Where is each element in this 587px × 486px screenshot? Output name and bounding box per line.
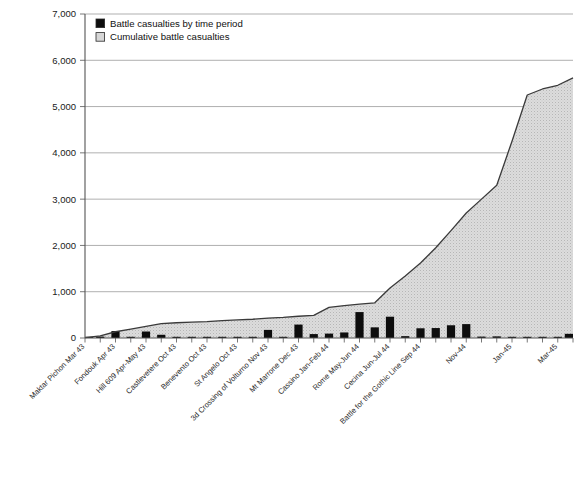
y-axis-labels: 01,0002,0003,0004,0005,0006,0007,000 xyxy=(52,8,76,343)
bar xyxy=(416,328,424,338)
bar xyxy=(462,324,470,338)
bar xyxy=(386,317,394,338)
x-axis-tick-label: Nov-44 xyxy=(444,342,468,366)
y-axis-tick-label: 6,000 xyxy=(52,55,76,66)
cumulative-area xyxy=(85,78,573,338)
x-axis-tick-label: Mar-45 xyxy=(536,342,559,365)
y-axis-tick-label: 4,000 xyxy=(52,147,76,158)
bar xyxy=(340,332,348,338)
legend-swatch xyxy=(96,19,105,28)
y-axis-tick-label: 1,000 xyxy=(52,286,76,297)
y-axis-ticks xyxy=(80,14,85,338)
y-axis-tick-label: 2,000 xyxy=(52,240,76,251)
legend-label: Cumulative battle casualties xyxy=(110,31,230,42)
y-axis-tick-label: 5,000 xyxy=(52,101,76,112)
y-axis-tick-label: 7,000 xyxy=(52,8,76,19)
bar xyxy=(294,325,302,338)
bar xyxy=(447,325,455,338)
bar xyxy=(371,327,379,338)
bar xyxy=(325,334,333,338)
y-axis-tick-label: 0 xyxy=(71,332,76,343)
bar xyxy=(310,334,318,338)
casualties-chart: 01,0002,0003,0004,0005,0006,0007,000 Mak… xyxy=(0,0,587,486)
bar xyxy=(565,334,573,338)
bar xyxy=(142,332,150,338)
x-axis-tick-label: Maktar Pichon Mar 43 xyxy=(28,342,87,401)
legend: Battle casualties by time periodCumulati… xyxy=(96,18,243,43)
bar xyxy=(264,330,272,338)
legend-swatch xyxy=(96,33,105,42)
chart-container: 01,0002,0003,0004,0005,0006,0007,000 Mak… xyxy=(0,0,587,486)
bar xyxy=(355,312,363,338)
x-axis-ticks xyxy=(85,338,573,343)
y-axis-tick-label: 3,000 xyxy=(52,194,76,205)
legend-label: Battle casualties by time period xyxy=(110,18,243,29)
x-axis-labels: Maktar Pichon Mar 43Fondouk Apr 43Hill 6… xyxy=(28,342,560,426)
x-axis-tick-label: Jan-45 xyxy=(491,342,514,365)
bar xyxy=(432,328,440,338)
